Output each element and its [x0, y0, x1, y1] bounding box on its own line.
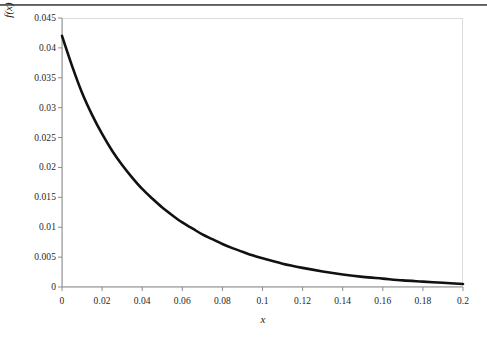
x-tick-label: 0.2 [457, 296, 469, 306]
x-tick-label: 0.06 [174, 296, 191, 306]
x-tick-label: 0.1 [256, 296, 268, 306]
x-tick-marks [62, 287, 463, 291]
y-tick-label: 0.01 [20, 222, 56, 232]
data-curve-f-of-x [62, 36, 463, 284]
y-tick-label: 0.025 [20, 133, 56, 143]
y-tick-label: 0 [20, 282, 56, 292]
y-tick-label: 0.015 [20, 192, 56, 202]
x-tick-label: 0.08 [214, 296, 231, 306]
y-tick-label: 0.03 [20, 103, 56, 113]
y-tick-label: 0.04 [20, 43, 56, 53]
figure-container: 00.0050.010.0150.020.0250.030.0350.040.0… [0, 0, 487, 338]
x-axis-title: x [261, 313, 266, 325]
x-tick-label: 0.04 [134, 296, 151, 306]
x-tick-label: 0.12 [294, 296, 311, 306]
y-tick-label: 0.005 [20, 252, 56, 262]
x-tick-label: 0.14 [334, 296, 351, 306]
x-tick-label: 0.18 [414, 296, 431, 306]
x-tick-label: 0 [60, 296, 65, 306]
chart-canvas [0, 0, 487, 338]
x-tick-label: 0.16 [374, 296, 391, 306]
y-tick-label: 0.045 [20, 13, 56, 23]
x-tick-label: 0.02 [94, 296, 111, 306]
y-tick-marks [58, 18, 62, 287]
y-axis-title: f(x) [2, 2, 14, 17]
y-tick-label: 0.02 [20, 162, 56, 172]
y-tick-label: 0.035 [20, 73, 56, 83]
